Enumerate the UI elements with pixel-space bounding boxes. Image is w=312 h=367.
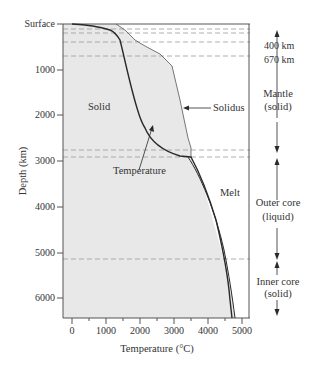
y-tick-6000: 6000 — [35, 292, 55, 303]
y-tick-5000: 5000 — [35, 247, 55, 258]
outer-core-label: Outer core — [256, 197, 301, 208]
y-tick-3000: 3000 — [35, 155, 55, 166]
solid-label: Solid — [88, 101, 111, 112]
y-tick-2000: 2000 — [35, 109, 55, 120]
y-tick-surface: Surface — [24, 18, 55, 29]
inner-core-label: Inner core — [257, 276, 300, 287]
y-tick-1000: 1000 — [35, 64, 55, 75]
x-axis-labels: 0 1000 2000 3000 4000 5000 — [70, 325, 253, 336]
y-axis-title: Depth (km) — [17, 146, 29, 195]
x-tick-4000: 4000 — [198, 325, 218, 336]
solidus-label: Solidus — [213, 102, 245, 113]
solidus-arrow — [183, 106, 211, 111]
temperature-label: Temperature — [113, 165, 166, 176]
x-tick-5000: 5000 — [232, 325, 252, 336]
mantle-state-label: (solid) — [264, 101, 292, 113]
x-axis-title: Temperature (°C) — [120, 343, 194, 355]
x-tick-2000: 2000 — [130, 325, 150, 336]
x-axis-ticks — [72, 318, 242, 324]
x-tick-3000: 3000 — [164, 325, 184, 336]
depth-400-label: 400 km — [264, 40, 295, 51]
inner-core-state-label: (solid) — [264, 288, 292, 300]
y-tick-4000: 4000 — [35, 201, 55, 212]
mantle-label: Mantle — [263, 88, 293, 99]
y-axis-ticks — [57, 24, 63, 298]
y-axis-labels: Surface 1000 2000 3000 4000 5000 6000 — [24, 18, 55, 303]
depth-temperature-diagram: Surface 1000 2000 3000 4000 5000 6000 0 … — [0, 0, 312, 367]
x-tick-1000: 1000 — [96, 325, 116, 336]
x-tick-0: 0 — [70, 325, 75, 336]
melt-label: Melt — [220, 187, 240, 198]
outer-core-state-label: (liquid) — [262, 211, 294, 223]
depth-670-label: 670 km — [264, 54, 295, 65]
